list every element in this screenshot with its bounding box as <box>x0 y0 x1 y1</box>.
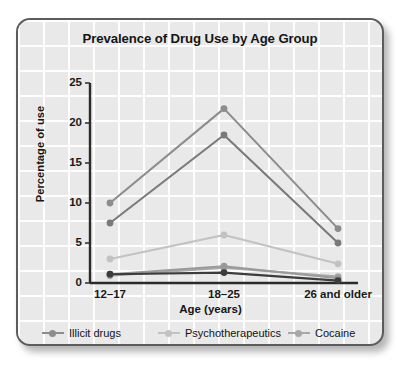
chart-card: Prevalence of Drug Use by Age Group 0510… <box>16 18 384 346</box>
x-tick-label: 18–25 <box>169 288 279 300</box>
legend-label: Cocaine <box>315 327 355 339</box>
legend-item[interactable]: Cocaine <box>288 327 372 339</box>
y-tick-label: 0 <box>48 276 82 288</box>
plot-series-group <box>107 105 342 284</box>
chart-legend: Illicit drugsPsychotherapeuticsCocaineMa… <box>42 323 372 346</box>
y-axis-title: Percentage of use <box>34 99 46 209</box>
legend-item[interactable]: Illicit drugs <box>42 327 158 339</box>
series-line <box>107 232 342 268</box>
legend-label: Psychotherapeutics <box>185 327 281 339</box>
legend-marker-icon <box>158 328 180 338</box>
legend-marker-icon <box>42 328 64 338</box>
series-line <box>107 132 342 247</box>
y-tick-label: 5 <box>48 236 82 248</box>
y-tick-label: 25 <box>48 76 82 88</box>
plot-area: 0510152025 12–1718–2526 and older Percen… <box>18 20 384 346</box>
legend-marker-icon <box>288 328 310 338</box>
x-tick-label: 12–17 <box>55 288 165 300</box>
legend-item[interactable]: Psychotherapeutics <box>158 327 288 339</box>
y-tick-label: 15 <box>48 156 82 168</box>
y-tick-label: 10 <box>48 196 82 208</box>
plot-axes <box>85 83 358 283</box>
x-tick-label: 26 and older <box>283 288 384 300</box>
x-axis-title: Age (years) <box>78 303 343 315</box>
legend-label: Illicit drugs <box>69 327 121 339</box>
y-tick-label: 20 <box>48 116 82 128</box>
